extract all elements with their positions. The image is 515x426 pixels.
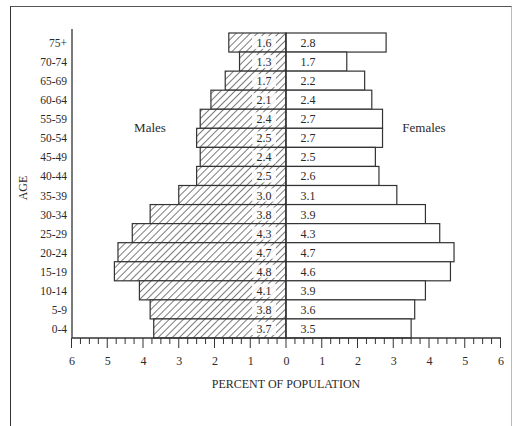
male-value: 4.7 [257,246,272,260]
y-axis-title: AGE [16,176,30,201]
x-axis-title: PERCENT OF POPULATION [212,377,361,391]
x-tick-label: 2 [212,354,218,368]
female-value: 4.7 [301,246,316,260]
age-label: 55-59 [40,113,67,125]
age-label: 5-9 [52,304,68,316]
female-value: 2.4 [301,93,316,107]
female-value: 2.6 [301,169,316,183]
male-value: 3.8 [257,208,272,222]
male-value: 1.3 [257,55,272,69]
female-value: 4.3 [301,227,316,241]
x-tick-label: 3 [176,354,182,368]
x-tick-label: 5 [105,354,111,368]
x-tick-label: 6 [69,354,75,368]
males-label: Males [134,120,166,135]
age-label: 45-49 [40,151,67,163]
female-bar [286,90,372,109]
male-value: 2.5 [257,169,272,183]
female-value: 3.9 [301,208,316,222]
female-value: 3.1 [301,189,316,203]
female-bar [286,71,365,90]
age-label: 70-74 [40,56,67,68]
age-label: 20-24 [40,247,67,259]
age-label: 25-29 [40,228,67,240]
age-label: 0-4 [52,323,68,335]
x-tick-label: 4 [141,354,147,368]
age-label: 50-54 [40,132,67,144]
female-value: 4.6 [301,265,316,279]
bars-group: 1.62.81.31.71.72.22.12.42.42.72.52.72.42… [114,33,454,338]
female-value: 2.8 [301,36,316,50]
age-label: 35-39 [40,190,67,202]
male-value: 3.7 [257,322,272,336]
female-value: 1.7 [301,55,316,69]
male-value: 2.1 [257,93,272,107]
x-tick-label: 4 [427,354,433,368]
female-value: 2.2 [301,74,316,88]
age-label: 40-44 [40,170,67,182]
x-tick-label: 0 [284,354,290,368]
male-value: 1.7 [257,74,272,88]
male-value: 3.8 [257,303,272,317]
female-value: 2.7 [301,131,316,145]
female-bar [286,147,375,166]
x-tick-label: 2 [355,354,361,368]
male-value: 1.6 [257,36,272,50]
female-value: 3.9 [301,284,316,298]
age-label: 10-14 [40,285,67,297]
male-value: 4.8 [257,265,272,279]
x-tick-label: 1 [248,354,254,368]
male-value: 3.0 [257,189,272,203]
x-tick-label: 6 [498,354,504,368]
male-value: 2.5 [257,131,272,145]
female-value: 3.6 [301,303,316,317]
age-label: 60-64 [40,94,67,106]
age-label: 65-69 [40,75,67,87]
x-tick-label: 5 [462,354,468,368]
female-value: 3.5 [301,322,316,336]
male-value: 4.1 [257,284,272,298]
female-value: 2.7 [301,112,316,126]
male-value: 4.3 [257,227,272,241]
y-axis-labels: 75+70-7465-6960-6455-5950-5445-4940-4435… [40,37,67,335]
x-tick-label: 3 [391,354,397,368]
male-value: 2.4 [257,150,272,164]
age-label: 30-34 [40,209,67,221]
female-bar [286,52,347,71]
females-label: Females [402,120,445,135]
male-value: 2.4 [257,112,272,126]
age-label: 15-19 [40,266,67,278]
age-label: 75+ [49,37,67,49]
x-tick-label: 1 [319,354,325,368]
female-value: 2.5 [301,150,316,164]
